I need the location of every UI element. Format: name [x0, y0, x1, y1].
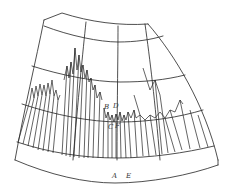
grid-arc-4: [17, 142, 214, 158]
grid-arc-2: [32, 66, 185, 82]
label-b: B: [103, 103, 109, 111]
diagram-svg: B D C F A E: [0, 0, 229, 193]
grid-meridian-2: [117, 26, 118, 160]
label-d: D: [112, 102, 119, 110]
label-c: C: [108, 123, 114, 131]
label-e: E: [125, 172, 131, 180]
label-a: A: [111, 172, 117, 180]
diagram-figure: B D C F A E: [0, 0, 229, 193]
outline-top-edge: [44, 13, 148, 25]
grid-arc-1: [44, 26, 163, 42]
